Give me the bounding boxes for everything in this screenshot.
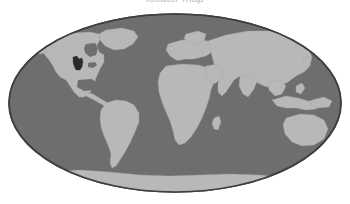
new-zealand-land — [335, 137, 343, 149]
world-map — [0, 0, 350, 204]
locator-map-figure: locator map — [0, 0, 350, 204]
